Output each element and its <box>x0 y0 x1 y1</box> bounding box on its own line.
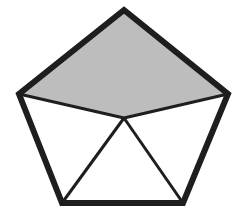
pentagon-diagram <box>0 0 247 224</box>
segment-line <box>124 118 183 203</box>
segment-line <box>62 118 124 203</box>
diagram-container <box>0 0 247 224</box>
